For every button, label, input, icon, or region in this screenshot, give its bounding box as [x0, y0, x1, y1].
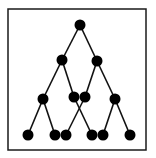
tree-edge — [62, 60, 74, 97]
tree-node — [75, 20, 86, 31]
tree-node — [98, 130, 109, 141]
tree-edge — [80, 25, 97, 61]
tree-node — [38, 94, 49, 105]
tree-node — [69, 92, 80, 103]
tree-edge — [28, 99, 43, 135]
tree-edge — [115, 99, 130, 135]
tree-edge — [43, 99, 55, 135]
tree-node — [50, 130, 61, 141]
tree-edge — [85, 61, 97, 97]
tree-node — [61, 130, 72, 141]
tree-node — [125, 130, 136, 141]
tree-edges — [28, 25, 130, 135]
tree-edge — [97, 61, 115, 99]
tree-edge — [62, 25, 80, 60]
tree-node — [87, 130, 98, 141]
tree-edge — [43, 60, 62, 99]
tree-nodes — [23, 20, 136, 141]
tree-node — [92, 56, 103, 67]
tree-node — [23, 130, 34, 141]
tree-edge — [103, 99, 115, 135]
tree-node — [110, 94, 121, 105]
tree-node — [57, 55, 68, 66]
tree-node — [80, 92, 91, 103]
tree-diagram — [0, 0, 156, 158]
